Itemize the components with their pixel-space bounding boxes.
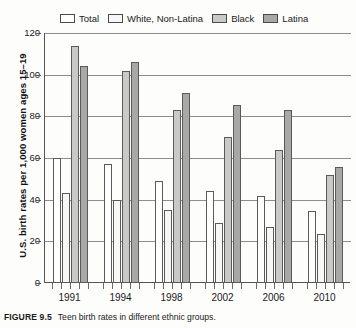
x-axis-tick-mark — [130, 283, 131, 289]
x-axis-labels: 199119941998200220062010 — [44, 292, 350, 306]
x-axis-tick-mark — [316, 283, 317, 289]
x-axis-tick-mark — [292, 283, 293, 289]
bar — [122, 71, 130, 284]
bar — [206, 191, 214, 283]
x-axis-tick-mark — [154, 283, 155, 289]
x-axis-tick-mark — [343, 283, 344, 289]
bar — [104, 164, 112, 283]
x-axis-tick-mark — [61, 283, 62, 289]
bar — [80, 66, 88, 283]
bar — [284, 110, 292, 283]
x-axis-tick-mark — [139, 283, 140, 289]
x-axis-tick-mark — [88, 283, 89, 289]
bar — [155, 181, 163, 283]
y-axis-tick-mark — [36, 241, 41, 242]
x-axis-tick-mark — [52, 283, 53, 289]
x-axis-tick-label: 2010 — [295, 292, 355, 303]
x-axis-tick-mark — [232, 283, 233, 289]
bar — [164, 210, 172, 283]
x-axis-tick-mark — [223, 283, 224, 289]
x-axis-tick-mark — [307, 283, 308, 289]
legend-label: Latina — [282, 14, 308, 24]
legend-label: White, Non-Latina — [127, 14, 203, 24]
x-axis-tick-mark — [283, 283, 284, 289]
legend-item: Latina — [263, 14, 308, 24]
chart-legend: TotalWhite, Non-LatinaBlackLatina — [60, 10, 352, 27]
bar — [275, 150, 283, 283]
legend-label: Black — [231, 14, 254, 24]
y-axis-tick-mark — [36, 75, 41, 76]
legend-item: Total — [60, 14, 99, 24]
x-axis-tick-mark — [163, 283, 164, 289]
x-axis-tick-mark — [214, 283, 215, 289]
x-axis-tick-mark — [274, 283, 275, 289]
y-axis-tick-mark — [36, 33, 41, 34]
bar — [308, 211, 316, 283]
x-axis-tick-mark — [325, 283, 326, 289]
x-axis-tick-mark — [70, 283, 71, 289]
y-axis-tick-mark — [36, 116, 41, 117]
figure-caption: FIGURE 9.5Teen birth rates in different … — [4, 312, 352, 323]
y-axis-ticks: 020406080100120 — [0, 33, 40, 283]
bar-series-group — [45, 33, 351, 283]
bar — [113, 200, 121, 283]
x-axis-tick-mark — [79, 283, 80, 289]
legend-item: Black — [212, 14, 254, 24]
bar — [71, 46, 79, 284]
bar — [215, 223, 223, 283]
bar — [62, 193, 70, 283]
bar — [326, 175, 334, 283]
figure-container: TotalWhite, Non-LatinaBlackLatina U.S. b… — [0, 0, 356, 328]
x-axis-tick-mark — [205, 283, 206, 289]
bar — [53, 158, 61, 283]
bar — [182, 93, 190, 283]
x-axis-tick-mark — [265, 283, 266, 289]
bar — [266, 227, 274, 283]
legend-swatch-icon — [108, 14, 123, 23]
x-axis-tick-mark — [103, 283, 104, 289]
legend-swatch-icon — [212, 14, 227, 23]
x-axis-tick-mark — [181, 283, 182, 289]
bar — [224, 137, 232, 283]
x-axis-tick-mark — [112, 283, 113, 289]
legend-swatch-icon — [263, 14, 278, 23]
x-axis-tick-mark — [241, 283, 242, 289]
y-axis-tick-mark — [36, 200, 41, 201]
bar — [131, 62, 139, 283]
legend-item: White, Non-Latina — [108, 14, 203, 24]
plot-area — [44, 33, 350, 283]
x-axis-tick-mark — [172, 283, 173, 289]
x-axis-tick-mark — [190, 283, 191, 289]
bar — [233, 105, 241, 283]
bar — [317, 234, 325, 283]
figure-number: FIGURE 9.5 — [4, 312, 52, 322]
x-axis-tick-mark — [256, 283, 257, 289]
figure-caption-text: Teen birth rates in different ethnic gro… — [58, 312, 216, 322]
legend-label: Total — [79, 14, 99, 24]
y-axis-tick-mark — [36, 158, 41, 159]
bar — [257, 196, 265, 284]
bar — [173, 110, 181, 283]
bar — [335, 167, 343, 283]
x-axis-tick-marks — [44, 283, 350, 290]
x-axis-tick-mark — [121, 283, 122, 289]
legend-swatch-icon — [60, 14, 75, 23]
y-axis-tick-mark — [36, 283, 41, 284]
x-axis-tick-mark — [334, 283, 335, 289]
